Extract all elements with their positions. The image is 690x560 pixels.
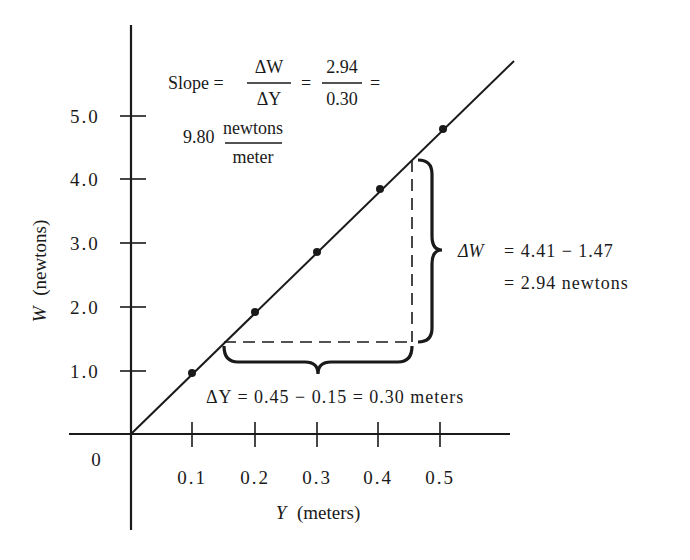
- fit-line: [131, 61, 514, 434]
- delta-y-brace: [224, 346, 412, 374]
- y-tick-label: 4.0: [70, 169, 100, 190]
- slope-annotation: Slope = ΔW ΔY = 2.94 0.30 = 9.80 newtons…: [168, 57, 380, 167]
- x-tick-label: 0.5: [425, 467, 455, 488]
- delta-w-symbol: ΔW: [255, 57, 284, 77]
- data-point: [188, 369, 196, 377]
- y-tick-label: 5.0: [70, 106, 100, 127]
- delta-w-brace: [418, 160, 442, 342]
- y-axis-unit: (newtons): [29, 220, 51, 296]
- slope-unit-num: newtons: [223, 118, 283, 138]
- x-axis-var: Y: [276, 502, 289, 523]
- slope-frac2-den: 0.30: [326, 89, 358, 109]
- slope-eq2: =: [370, 73, 380, 93]
- chart: 5.0 4.0 3.0 2.0 1.0 0.1 0.2 0.3 0.4 0.5 …: [0, 0, 690, 560]
- x-tick-label: 0.1: [177, 467, 207, 488]
- x-tick-label: 0.2: [240, 467, 270, 488]
- slope-frac2-num: 2.94: [326, 57, 358, 77]
- slope-frac1-num: ΔW: [255, 57, 284, 77]
- slope-value: 9.80: [183, 127, 215, 147]
- delta-w-label: ΔW: [457, 241, 486, 261]
- data-point: [376, 185, 384, 193]
- slope-frac1-den: ΔY: [257, 89, 282, 109]
- delta-w-line1: = 4.41 − 1.47: [504, 241, 614, 261]
- delta-w-line2: = 2.94 newtons: [504, 273, 629, 293]
- data-point: [251, 308, 259, 316]
- x-axis-unit: (meters): [297, 502, 360, 524]
- y-tick-label: 3.0: [70, 233, 100, 254]
- data-point: [313, 248, 321, 256]
- delta-w-annotation: ΔW = 4.41 − 1.47 = 2.94 newtons: [457, 241, 629, 293]
- y-tick-label: 1.0: [70, 361, 100, 382]
- data-point: [439, 125, 447, 133]
- origin-label: 0: [91, 449, 103, 470]
- y-ticks: [120, 116, 146, 371]
- slope-prefix: Slope =: [168, 73, 224, 93]
- y-axis-var: W: [29, 304, 50, 322]
- x-tick-label: 0.3: [302, 467, 332, 488]
- y-axis-label: W (newtons): [29, 220, 51, 323]
- x-axis-label: Y (meters): [276, 502, 361, 524]
- slope-unit-den: meter: [233, 147, 274, 167]
- y-tick-label: 2.0: [70, 297, 100, 318]
- slope-eq1: =: [301, 73, 311, 93]
- x-tick-label: 0.4: [363, 467, 393, 488]
- delta-y-annotation: ΔY = 0.45 − 0.15 = 0.30 meters: [206, 387, 464, 407]
